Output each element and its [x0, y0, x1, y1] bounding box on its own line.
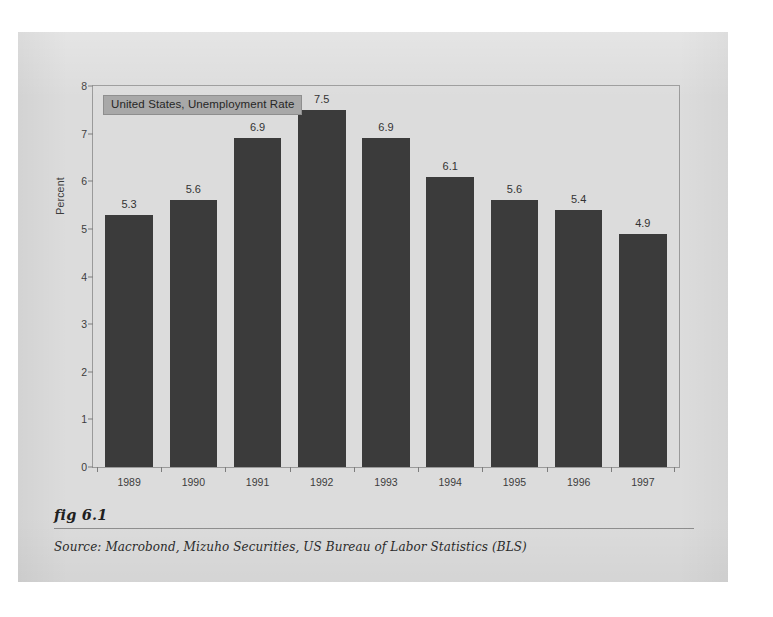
- bar-value-label: 6.9: [250, 121, 265, 133]
- x-axis-tick-mark: [674, 467, 675, 472]
- caption-divider: [54, 528, 694, 529]
- x-axis-tick-label: 1996: [567, 476, 590, 488]
- x-axis-tick-label: 1995: [503, 476, 526, 488]
- bar-value-label: 5.6: [186, 183, 201, 195]
- plot-area: 012345678 5.319895.619906.919917.519926.…: [92, 85, 680, 468]
- bar-group: 5.61995: [482, 86, 546, 467]
- bar[interactable]: 6.9: [362, 138, 410, 467]
- bar-value-label: 5.3: [121, 198, 136, 210]
- bar[interactable]: 5.6: [170, 200, 218, 467]
- bar-group: 6.91991: [225, 86, 289, 467]
- y-axis-tick-label: 3: [81, 318, 87, 330]
- bar-group: 5.61990: [161, 86, 225, 467]
- y-axis-tick-label: 0: [81, 461, 87, 473]
- figure-caption: fig 6.1 Source: Macrobond, Mizuho Securi…: [54, 506, 694, 554]
- bar-group: 5.41996: [547, 86, 611, 467]
- x-axis-tick-label: 1994: [439, 476, 462, 488]
- bar[interactable]: 6.1: [426, 177, 474, 468]
- bar-group: 7.51992: [290, 86, 354, 467]
- x-axis-tick-mark: [418, 467, 419, 472]
- x-axis-tick-mark: [354, 467, 355, 472]
- bar[interactable]: 5.4: [555, 210, 603, 467]
- y-axis-tick-label: 2: [81, 366, 87, 378]
- figure-panel: Percent 012345678 5.319895.619906.919917…: [18, 32, 728, 582]
- bar[interactable]: 7.5: [298, 110, 346, 467]
- x-axis-tick-label: 1989: [117, 476, 140, 488]
- bar-value-label: 7.5: [314, 93, 329, 105]
- y-axis-tick-label: 6: [81, 175, 87, 187]
- x-axis-tick-label: 1997: [631, 476, 654, 488]
- x-axis-tick-mark: [482, 467, 483, 472]
- x-axis-tick-mark: [97, 467, 98, 472]
- bar-value-label: 5.6: [507, 183, 522, 195]
- bar-value-label: 4.9: [635, 217, 650, 229]
- bar-value-label: 6.9: [378, 121, 393, 133]
- figure-number: fig 6.1: [54, 506, 694, 528]
- x-axis-tick-mark: [611, 467, 612, 472]
- bar-group: 4.91997: [611, 86, 675, 467]
- y-axis-tick-label: 1: [81, 413, 87, 425]
- x-axis-tick-label: 1990: [182, 476, 205, 488]
- x-axis-tick-mark: [161, 467, 162, 472]
- bar-group: 6.11994: [418, 86, 482, 467]
- source-note: Source: Macrobond, Mizuho Securities, US…: [54, 540, 694, 554]
- chart-container: Percent 012345678 5.319895.619906.919917…: [18, 32, 728, 500]
- x-axis-tick-label: 1992: [310, 476, 333, 488]
- y-axis-tick-label: 7: [81, 128, 87, 140]
- bar-group: 5.31989: [97, 86, 161, 467]
- x-axis-tick-mark: [290, 467, 291, 472]
- bar[interactable]: 4.9: [619, 234, 667, 467]
- bar-series: 5.319895.619906.919917.519926.919936.119…: [93, 86, 679, 467]
- page-canvas: Percent 012345678 5.319895.619906.919917…: [0, 0, 773, 617]
- bar[interactable]: 6.9: [234, 138, 282, 467]
- bar-group: 6.91993: [354, 86, 418, 467]
- x-axis-tick-label: 1991: [246, 476, 269, 488]
- x-axis-tick-mark: [547, 467, 548, 472]
- x-axis-tick-mark: [225, 467, 226, 472]
- bar-value-label: 6.1: [443, 160, 458, 172]
- bar-value-label: 5.4: [571, 193, 586, 205]
- bar[interactable]: 5.3: [105, 215, 153, 467]
- bar[interactable]: 5.6: [491, 200, 539, 467]
- y-axis-tick-label: 5: [81, 223, 87, 235]
- chart-legend: United States, Unemployment Rate: [103, 95, 302, 115]
- x-axis-tick-label: 1993: [374, 476, 397, 488]
- y-axis-title: Percent: [54, 136, 66, 256]
- y-axis-tick-label: 4: [81, 271, 87, 283]
- y-axis-tick-label: 8: [81, 80, 87, 92]
